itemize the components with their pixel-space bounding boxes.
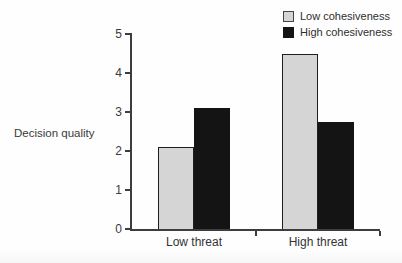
y-axis-title: Decision quality: [14, 127, 95, 139]
x-tick-2: [379, 231, 381, 236]
x-tick-1: [255, 231, 257, 236]
plot-area: 012345Low threatHigh threat: [130, 34, 380, 231]
bar-low-threat-low-cohesiveness: [158, 147, 194, 229]
x-category-label-high-threat: High threat: [273, 235, 363, 249]
y-tick-label-0: 0: [98, 223, 122, 235]
legend-item-high-cohesiveness: High cohesiveness: [283, 24, 392, 40]
legend-label-high-cohesiveness: High cohesiveness: [300, 26, 392, 38]
bar-low-threat-high-cohesiveness: [194, 108, 230, 229]
legend-swatch-low-cohesiveness: [283, 11, 294, 22]
legend-item-low-cohesiveness: Low cohesiveness: [283, 8, 392, 24]
y-tick-label-5: 5: [98, 28, 122, 40]
y-tick-0: [125, 228, 132, 230]
legend-swatch-high-cohesiveness: [283, 27, 294, 38]
y-tick-label-3: 3: [98, 106, 122, 118]
x-category-label-low-threat: Low threat: [149, 235, 239, 249]
y-tick-label-2: 2: [98, 145, 122, 157]
legend: Low cohesiveness High cohesiveness: [283, 8, 392, 40]
y-tick-3: [125, 111, 132, 113]
legend-label-low-cohesiveness: Low cohesiveness: [300, 10, 390, 22]
y-tick-1: [125, 189, 132, 191]
y-tick-4: [125, 72, 132, 74]
scan-shading: [0, 249, 402, 263]
bar-high-threat-high-cohesiveness: [318, 122, 354, 229]
bar-high-threat-low-cohesiveness: [282, 54, 318, 230]
y-tick-label-4: 4: [98, 67, 122, 79]
figure-decision-quality-chart: Decision quality 012345Low threatHigh th…: [0, 0, 402, 263]
y-tick-5: [125, 33, 132, 35]
y-tick-2: [125, 150, 132, 152]
y-tick-label-1: 1: [98, 184, 122, 196]
